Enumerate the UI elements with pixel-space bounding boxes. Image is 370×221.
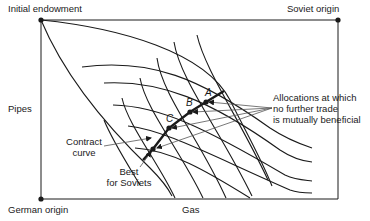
point-b-label: B [186,97,193,108]
point-c-label: C [166,113,173,124]
soviet-origin-label: Soviet origin [287,3,339,14]
y-axis-label: Pipes [8,103,32,114]
initial-endowment-label: Initial endowment [8,3,82,14]
best-for-soviets-label: Best for Soviets [104,166,154,188]
contract-curve-label: Contract curve [62,136,106,158]
point-a-dot [203,99,208,104]
point-a-label: A [205,87,212,98]
allocations-label: Allocations at which no further trade is… [273,92,361,125]
best-for-soviets-dot [150,146,155,151]
lens-boundary-curves [41,20,272,196]
point-b-dot [187,109,192,114]
x-axis-label: Gas [182,204,199,215]
german-origin-label: German origin [8,204,68,215]
german-origin-dot [38,196,43,201]
soviet-origin-dot [335,17,340,22]
point-c-dot [166,125,171,130]
